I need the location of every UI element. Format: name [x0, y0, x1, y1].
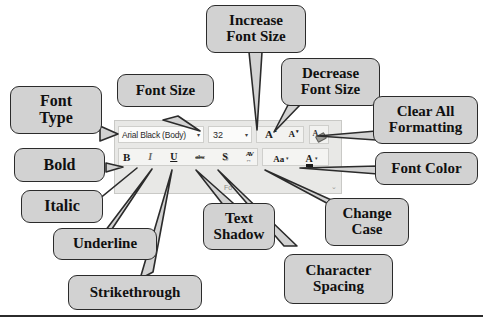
decrease-font-size-glyph: A	[289, 129, 296, 139]
change-case-control[interactable]: Aa▾	[273, 148, 289, 166]
callout-font-color-line-1: Font Color	[391, 161, 461, 177]
font-name-combobox[interactable]: Arial Black (Body) ▾	[118, 126, 204, 143]
underline-button[interactable]: U	[170, 152, 177, 162]
callout-underline-line-1: Underline	[73, 236, 137, 252]
callout-character-spacing-line-1: Character	[306, 263, 372, 279]
callout-change-case-line-2: Case	[342, 222, 391, 238]
callout-decrease-font-size: Decrease Font Size	[281, 58, 380, 106]
callout-character-spacing-line-2: Spacing	[306, 279, 372, 295]
strikethrough-button[interactable]: abc	[195, 154, 204, 161]
increase-font-size-glyph: A	[265, 128, 273, 140]
decrease-font-size-button[interactable]: A▾	[289, 130, 296, 139]
italic-button[interactable]: I	[148, 152, 152, 162]
font-size-stepper-group: A▴ A▾	[256, 126, 304, 143]
font-size-value: 32	[213, 130, 223, 140]
font-name-value: Arial Black (Body)	[122, 130, 186, 140]
chevron-down-icon[interactable]: ▾	[197, 132, 200, 138]
clear-all-formatting-button[interactable]: A	[309, 125, 329, 144]
callout-decrease-font-size-line-1: Decrease	[301, 66, 361, 82]
font-color-control[interactable]: A▾	[306, 148, 318, 167]
callout-bold: Bold	[14, 148, 105, 182]
callout-clear-all-formatting-line-2: Formatting	[389, 120, 462, 136]
chevron-down-icon[interactable]: ▾	[286, 156, 289, 161]
callout-font-type-line-2: Type	[39, 110, 72, 127]
callout-text-shadow-line-2: Shadow	[214, 227, 265, 243]
callout-strikethrough: Strikethrough	[68, 275, 202, 310]
character-spacing-button[interactable]: AV ↔	[246, 151, 253, 163]
callout-character-spacing: Character Spacing	[284, 254, 393, 304]
change-case-button[interactable]: Aa	[273, 155, 284, 164]
callout-clear-all-formatting-line-1: Clear All	[389, 104, 462, 120]
callout-underline: Underline	[53, 228, 157, 260]
font-size-combobox[interactable]: 32 ▾	[208, 126, 252, 143]
callout-change-case: Change Case	[325, 198, 409, 246]
callout-bold-line-1: Bold	[43, 157, 75, 174]
chevron-down-icon[interactable]: ▾	[315, 156, 318, 161]
chevron-down-icon[interactable]: ▾	[245, 132, 248, 138]
callout-text-shadow: Text Shadow	[203, 203, 275, 250]
callout-font-type-line-1: Font	[39, 93, 72, 110]
annotated-screenshot: Arial Black (Body) ▾ 32 ▾ A▴ A▾ A B I U	[0, 0, 483, 317]
font-group-ribbon: Arial Black (Body) ▾ 32 ▾ A▴ A▾ A B I U	[114, 120, 342, 194]
callout-increase-font-size-line-2: Font Size	[226, 29, 286, 45]
callout-decrease-font-size-line-2: Font Size	[301, 82, 361, 98]
eraser-icon: A	[313, 129, 326, 141]
callout-change-case-line-1: Change	[342, 206, 391, 222]
callout-strikethrough-line-1: Strikethrough	[90, 285, 181, 301]
font-dialog-launcher[interactable]: ⌄	[331, 183, 337, 191]
callout-increase-font-size: Increase Font Size	[206, 5, 306, 53]
text-shadow-button[interactable]: S	[222, 152, 228, 162]
text-format-button-group: B I U abc S AV ↔	[118, 148, 258, 166]
callout-font-size-line-1: Font Size	[136, 83, 196, 99]
callout-text-shadow-line-1: Text	[214, 211, 265, 227]
up-arrow-icon: ▴	[274, 128, 277, 133]
font-group-label: Fo	[115, 184, 341, 191]
callout-font-type: Font Type	[10, 86, 102, 134]
bold-button[interactable]: B	[123, 152, 130, 163]
increase-font-size-button[interactable]: A▴	[265, 129, 273, 140]
callout-clear-all-formatting: Clear All Formatting	[373, 96, 478, 144]
callout-font-color: Font Color	[375, 152, 478, 185]
down-arrow-icon: ▾	[296, 129, 299, 134]
callout-italic: Italic	[21, 190, 103, 223]
callout-increase-font-size-line-1: Increase	[226, 13, 286, 29]
font-color-button[interactable]: A	[306, 154, 313, 167]
case-and-color-group: Aa▾ A▾	[262, 148, 329, 166]
callout-italic-line-1: Italic	[44, 198, 80, 215]
callout-font-size: Font Size	[117, 74, 214, 107]
